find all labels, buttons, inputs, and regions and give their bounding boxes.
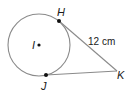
point-j xyxy=(44,73,48,77)
tangent-diagram: H I J K 12 cm xyxy=(0,0,132,94)
label-j: J xyxy=(40,80,47,92)
center-point-i xyxy=(37,43,40,46)
measure-label-hk: 12 cm xyxy=(88,36,115,47)
label-i: I xyxy=(32,39,35,51)
label-k: K xyxy=(117,69,125,81)
segment-jk xyxy=(46,71,117,75)
label-h: H xyxy=(57,6,65,18)
point-h xyxy=(57,19,61,23)
